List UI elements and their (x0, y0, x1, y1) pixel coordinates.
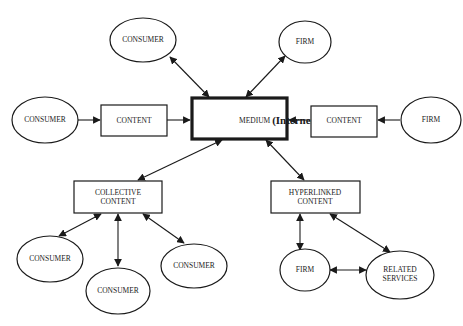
hyperlinked-content-line2: CONTENT (298, 197, 333, 206)
node-content-left: CONTENT (101, 105, 167, 136)
node-firm-right: FIRM (401, 97, 461, 143)
consumer-top-label: CONSUMER (122, 35, 164, 44)
collective-content-line2: CONTENT (101, 197, 136, 206)
node-collective-content: COLLECTIVE CONTENT (74, 181, 162, 213)
node-consumer-left: CONSUMER (12, 97, 78, 143)
node-consumer-top: CONSUMER (110, 18, 176, 62)
node-consumer-bottom-right: CONSUMER (161, 244, 227, 288)
node-firm-bottom: FIRM (280, 249, 330, 291)
firm-top-label: FIRM (296, 37, 315, 46)
consumer-bottom-right-label: CONSUMER (173, 261, 215, 270)
edge-collective-consumer-left (59, 214, 101, 236)
consumer-bottom-middle-label: CONSUMER (97, 286, 139, 295)
edge-firm-top-medium (246, 56, 285, 97)
edge-consumer-top-medium (170, 57, 209, 97)
medium-label: MEDIUM (Internet) (239, 114, 318, 127)
edges (59, 56, 400, 270)
internet-medium-diagram: CONSUMER FIRM CONSUMER CONTENT MEDIUM (I… (0, 0, 463, 326)
content-left-label: CONTENT (117, 116, 152, 125)
node-medium: MEDIUM (Internet) (192, 98, 318, 139)
node-firm-top: FIRM (279, 21, 331, 63)
consumer-bottom-left-label: CONSUMER (29, 254, 71, 263)
hyperlinked-content-line1: HYPERLINKED (289, 188, 342, 197)
related-services-line1: RELATED (383, 265, 417, 274)
consumer-left-label: CONSUMER (24, 115, 66, 124)
node-related-services: RELATED SERVICES (366, 251, 434, 299)
node-hyperlinked-content: HYPERLINKED CONTENT (271, 181, 360, 213)
node-consumer-bottom-left: CONSUMER (17, 236, 83, 282)
edge-medium-collective (138, 140, 222, 180)
node-content-right: CONTENT (311, 106, 377, 137)
firm-bottom-label: FIRM (296, 265, 315, 274)
node-consumer-bottom-middle: CONSUMER (86, 268, 150, 314)
collective-content-line1: COLLECTIVE (95, 188, 142, 197)
edge-hyperlinked-related (330, 214, 390, 252)
edge-collective-consumer-right (143, 214, 184, 243)
content-right-label: CONTENT (327, 116, 362, 125)
related-services-line2: SERVICES (383, 274, 418, 283)
edge-medium-hyperlinked (266, 140, 304, 180)
firm-right-label: FIRM (422, 115, 441, 124)
medium-label-prefix: MEDIUM (239, 116, 272, 125)
